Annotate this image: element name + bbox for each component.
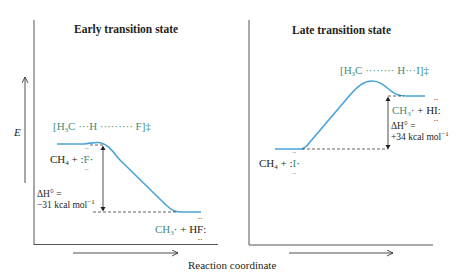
late-ts-structure-label: [H3C ········ H···I]‡: [340, 64, 429, 76]
late-ts-title: Late transition state: [292, 24, 391, 36]
early-ts-products-label: CH3· + HF:: [155, 223, 206, 235]
hf-fluorine: F: [197, 223, 203, 235]
early-ts-delta-h-label: ΔH° = −31 kcal mol−1: [37, 189, 95, 211]
energy-axis-label: E: [14, 126, 21, 138]
fluorine-radical: F: [84, 153, 90, 165]
reaction-coordinate-label: Reaction coordinate: [188, 259, 276, 271]
early-ts-structure-label: [H3C ···H ········· F]‡: [53, 120, 151, 132]
early-ts-reactants-label: CH4 + :F·: [50, 153, 93, 165]
early-ts-panel: [34, 20, 218, 253]
early-ts-title: Early transition state: [74, 23, 178, 35]
late-ts-delta-h-label: ΔH° = +34 kcal mol−1: [391, 121, 449, 143]
hi-iodine: I: [434, 104, 438, 116]
late-ts-products-label: CH3· + HI:: [392, 104, 441, 116]
late-ts-reactants-label: CH4 + :I·: [259, 157, 300, 169]
iodine-radical: I: [293, 157, 297, 169]
